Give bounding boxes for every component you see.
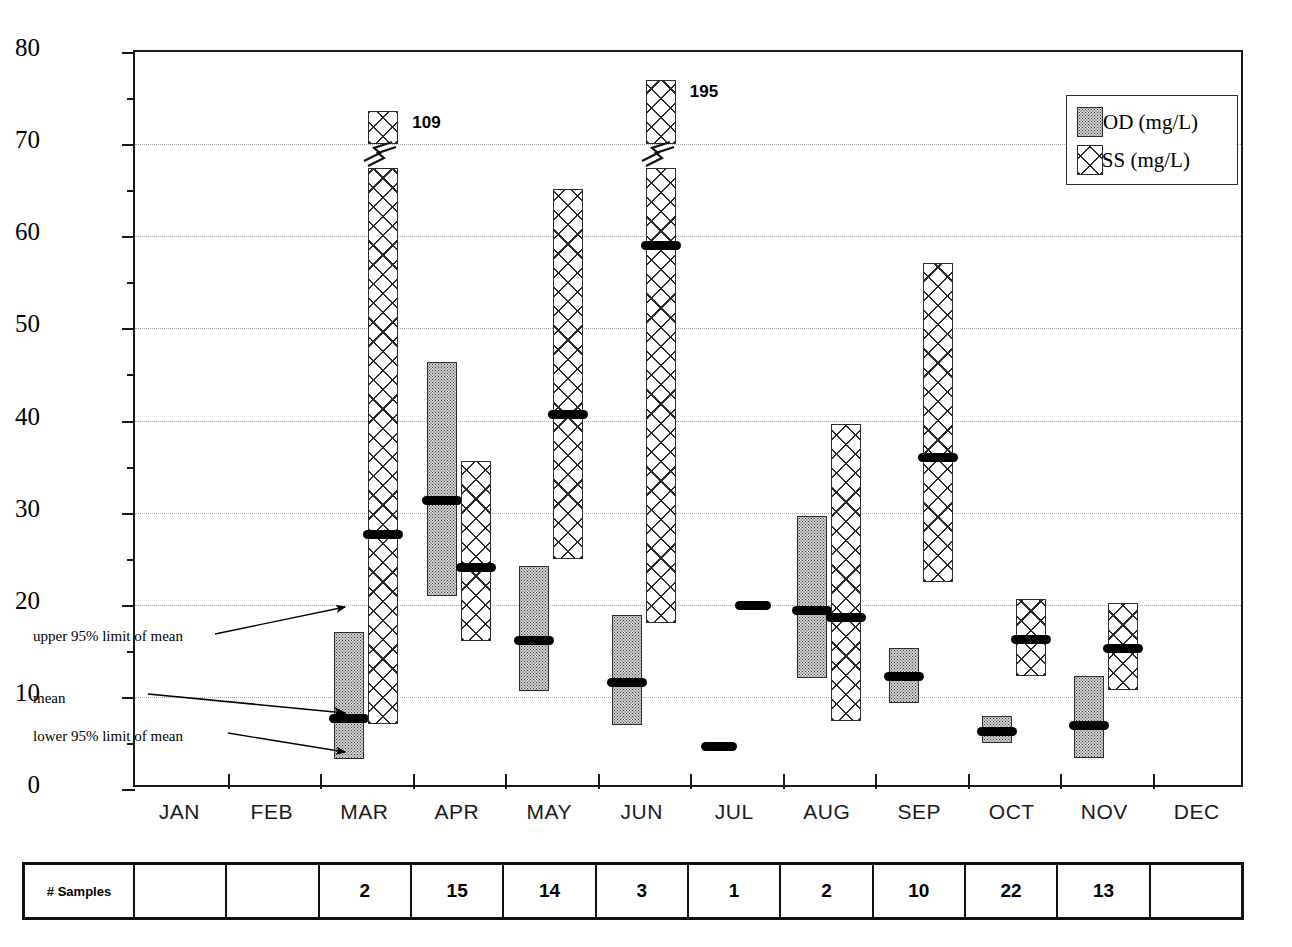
y-axis-minor-tick <box>127 98 135 100</box>
bar-tss-apr <box>461 461 491 641</box>
y-axis-minor-tick <box>127 651 135 653</box>
sample-count-oct: 22 <box>966 865 1058 917</box>
mean-marker-bod-nov <box>1069 721 1109 730</box>
x-axis-tick <box>783 774 785 789</box>
sample-count-jul: 1 <box>689 865 781 917</box>
y-axis-tick-label: 30 <box>0 496 40 521</box>
y-axis-minor-tick <box>127 190 135 192</box>
mean-marker-tss-apr <box>456 563 496 572</box>
mean-marker-tss-jun <box>641 241 681 250</box>
y-axis-tick-label: 40 <box>0 404 40 429</box>
bar-tss-mar <box>368 168 398 724</box>
mean-marker-bod-sep <box>884 672 924 681</box>
bar-bod-may <box>519 566 549 691</box>
bar-tss-sep <box>923 263 953 582</box>
x-axis-label-dec: DEC <box>1142 800 1252 824</box>
mean-marker-tss-jul <box>735 601 771 610</box>
y-axis-tick <box>122 605 135 607</box>
legend-label-tss: TSS (mg/L) <box>1089 148 1190 173</box>
bar-bod-mar <box>334 632 364 758</box>
sample-count-mar: 2 <box>320 865 412 917</box>
mean-marker-tss-nov <box>1103 644 1143 653</box>
bar-tss-jun <box>646 168 676 623</box>
bar-tss-aug <box>831 424 861 721</box>
gridline <box>135 421 1241 422</box>
y-axis-tick-label: 70 <box>0 127 40 152</box>
y-axis-tick-label: 0 <box>0 772 40 797</box>
y-axis-minor-tick <box>127 282 135 284</box>
y-axis-tick-label: 20 <box>0 588 40 613</box>
over-range-label-mar: 109 <box>412 113 440 133</box>
axis-break-icon <box>362 140 402 166</box>
y-axis-tick <box>122 789 135 791</box>
mean-marker-tss-aug <box>826 613 866 622</box>
y-axis-tick-label: 80 <box>0 35 40 60</box>
y-axis-minor-tick <box>127 374 135 376</box>
y-axis-tick <box>122 236 135 238</box>
y-axis-tick <box>122 421 135 423</box>
legend-item-bod: BOD (mg/L) <box>1077 103 1237 141</box>
y-axis-tick <box>122 328 135 330</box>
x-axis-tick <box>1153 774 1155 789</box>
gridline <box>135 605 1241 606</box>
legend-item-tss: TSS (mg/L) <box>1077 141 1237 179</box>
annotation-mean: mean <box>33 690 65 707</box>
y-axis-minor-tick <box>127 559 135 561</box>
sample-count-table: # Samples21514312102213 <box>22 862 1244 920</box>
mean-marker-bod-mar <box>329 714 369 723</box>
gridline <box>135 236 1241 237</box>
mean-marker-bod-apr <box>422 496 462 505</box>
chart-legend: BOD (mg/L) TSS (mg/L) <box>1066 95 1238 185</box>
annotation-lower-limit: lower 95% limit of mean <box>33 728 183 745</box>
bar-tss-mar-stub <box>368 111 398 144</box>
bar-tss-may <box>553 189 583 558</box>
legend-label-bod: BOD (mg/L) <box>1089 110 1198 135</box>
mean-marker-tss-oct <box>1011 635 1051 644</box>
legend-swatch-tss <box>1077 145 1103 175</box>
sample-count-dec <box>1151 865 1241 917</box>
mean-marker-tss-may <box>548 410 588 419</box>
bar-bod-jun <box>612 615 642 725</box>
x-axis-tick <box>875 774 877 789</box>
x-axis-tick <box>320 774 322 789</box>
bar-bod-aug <box>797 516 827 677</box>
bar-tss-jun-stub <box>646 80 676 144</box>
over-range-label-jun: 195 <box>690 82 718 102</box>
mean-marker-bod-jun <box>607 678 647 687</box>
legend-swatch-bod <box>1077 107 1103 137</box>
mean-marker-bod-jul <box>701 742 737 751</box>
y-axis-tick <box>122 513 135 515</box>
mean-marker-bod-oct <box>977 727 1017 736</box>
gridline <box>135 328 1241 329</box>
x-axis-tick <box>413 774 415 789</box>
sample-count-feb <box>227 865 319 917</box>
x-axis-tick <box>228 774 230 789</box>
sample-count-sep: 10 <box>874 865 966 917</box>
gridline <box>135 513 1241 514</box>
y-axis-tick <box>122 52 135 54</box>
y-axis-tick-label: 60 <box>0 219 40 244</box>
annotation-upper-limit: upper 95% limit of mean <box>33 628 183 645</box>
x-axis-tick <box>690 774 692 789</box>
mean-marker-bod-may <box>514 636 554 645</box>
x-axis-tick <box>598 774 600 789</box>
x-axis-tick <box>1060 774 1062 789</box>
sample-table-row-header: # Samples <box>25 865 135 917</box>
mean-marker-bod-aug <box>792 606 832 615</box>
bar-bod-nov <box>1074 676 1104 758</box>
sample-count-jan <box>135 865 227 917</box>
sample-count-jun: 3 <box>597 865 689 917</box>
x-axis-tick <box>505 774 507 789</box>
bar-bod-apr <box>427 362 457 596</box>
mean-marker-tss-sep <box>918 453 958 462</box>
sample-count-may: 14 <box>504 865 596 917</box>
sample-count-aug: 2 <box>781 865 873 917</box>
y-axis-tick-label: 50 <box>0 311 40 336</box>
axis-break-icon <box>640 140 680 166</box>
y-axis-tick <box>122 144 135 146</box>
mean-marker-tss-mar <box>363 530 403 539</box>
x-axis-tick <box>968 774 970 789</box>
y-axis-tick <box>122 697 135 699</box>
sample-count-nov: 13 <box>1058 865 1150 917</box>
y-axis-minor-tick <box>127 467 135 469</box>
